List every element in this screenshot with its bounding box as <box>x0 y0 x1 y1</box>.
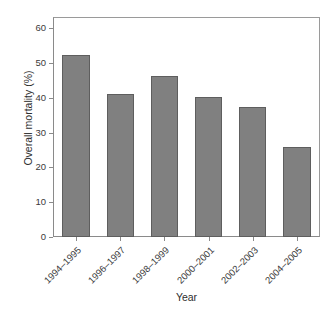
y-tick-mark <box>49 167 53 168</box>
y-tick-mark <box>49 63 53 64</box>
y-tick-label: 20 <box>35 162 46 172</box>
bar <box>239 107 266 237</box>
y-tick-mark <box>49 133 53 134</box>
x-tick-label: 2002–2003 <box>212 245 260 293</box>
x-tick-mark <box>120 237 121 241</box>
bar <box>151 76 178 237</box>
bar <box>107 94 134 237</box>
x-tick-mark <box>164 237 165 241</box>
x-tick-label: 2004–2005 <box>256 245 304 293</box>
x-tick-label: 1994–1995 <box>35 245 83 293</box>
x-tick-label: 1998–1999 <box>123 245 171 293</box>
bar <box>62 55 89 238</box>
y-tick-label: 0 <box>41 232 46 242</box>
x-tick-label: 2000–2001 <box>168 245 216 293</box>
x-tick-mark <box>253 237 254 241</box>
bars-layer <box>54 18 319 237</box>
y-tick-mark <box>49 28 53 29</box>
y-tick-label: 50 <box>35 58 46 68</box>
bar <box>283 147 310 237</box>
x-tick-mark <box>209 237 210 241</box>
bar <box>195 97 222 237</box>
x-tick-mark <box>297 237 298 241</box>
y-tick-mark <box>49 237 53 238</box>
y-tick-label: 30 <box>35 128 46 138</box>
y-tick-mark <box>49 202 53 203</box>
y-tick-label: 10 <box>35 197 46 207</box>
bar-chart-figure: 0102030405060 1994–19951996–19971998–199… <box>0 0 335 314</box>
x-tick-label: 1996–1997 <box>79 245 127 293</box>
y-axis-title: Overall mortality (%) <box>22 38 34 198</box>
x-tick-mark <box>76 237 77 241</box>
y-tick-mark <box>49 98 53 99</box>
y-tick-label: 60 <box>35 23 46 33</box>
y-tick-label: 40 <box>35 93 46 103</box>
x-axis-title: Year <box>53 291 320 303</box>
